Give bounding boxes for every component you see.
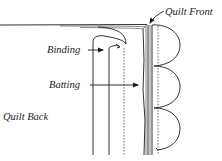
quilt-top-layers [0,25,147,30]
quilt-binding-diagram: Quilt Front Binding Batting Quilt Back [0,0,222,161]
quilt-front-arrow [150,11,164,23]
label-quilt-back: Quilt Back [3,111,49,122]
label-batting: Batting [49,79,80,90]
quilt-vertical-layers [143,25,158,156]
scalloped-edge [152,25,180,150]
binding-fold [93,27,126,155]
label-binding: Binding [47,44,80,55]
scallop-1 [152,25,180,66]
leader-arrows [88,11,164,85]
label-quilt-front: Quilt Front [165,6,214,17]
